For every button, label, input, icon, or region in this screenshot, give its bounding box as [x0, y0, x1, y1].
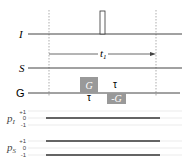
level-minus1: -1	[21, 122, 27, 128]
gradient-positive-label: G	[85, 80, 92, 91]
channel-label-g: G	[16, 87, 25, 99]
channel-label-s: S	[19, 62, 25, 74]
coherence-label-i: pI	[6, 112, 16, 126]
level-0: 0	[23, 115, 27, 121]
level-0: 0	[23, 145, 27, 151]
coherence-label-s: pS	[6, 141, 17, 155]
tau-above: τ	[113, 79, 117, 90]
level-minus1: -1	[21, 152, 27, 158]
level-plus1: +1	[19, 138, 27, 144]
rf-pulse	[100, 11, 105, 34]
channel-label-i: I	[18, 28, 24, 40]
arrowhead-icon	[150, 52, 156, 56]
gradient-negative-label: -G	[111, 93, 122, 104]
pulse-sequence-diagram: I t1 S G G -G τ τ pI +1 0 -1 pS +1 0 -1	[0, 0, 185, 165]
delay-label: t1	[100, 47, 107, 61]
tau-below: τ	[87, 92, 91, 103]
